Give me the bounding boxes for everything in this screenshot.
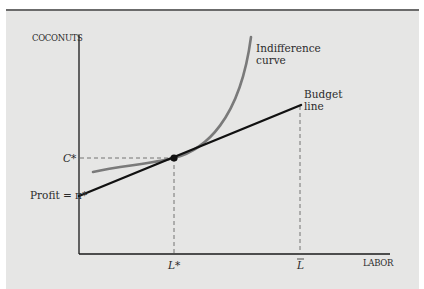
indifference-curve: [93, 37, 251, 172]
profit-label: Profit = π*: [30, 189, 88, 201]
l-bar-label: L: [296, 259, 304, 271]
tangency-point: [170, 154, 177, 161]
indifference-label-1: Indifference: [256, 42, 321, 54]
budget-label-1: Budget: [304, 88, 343, 100]
indifference-label-2: curve: [256, 54, 286, 66]
x-axis-label: LABOR: [363, 258, 394, 268]
y-axis-label: COCONUTS: [32, 33, 83, 43]
l-star-label: L*: [167, 259, 181, 271]
budget-line: [79, 105, 301, 196]
c-star-label: C*: [63, 152, 77, 164]
budget-label-2: line: [304, 100, 324, 112]
